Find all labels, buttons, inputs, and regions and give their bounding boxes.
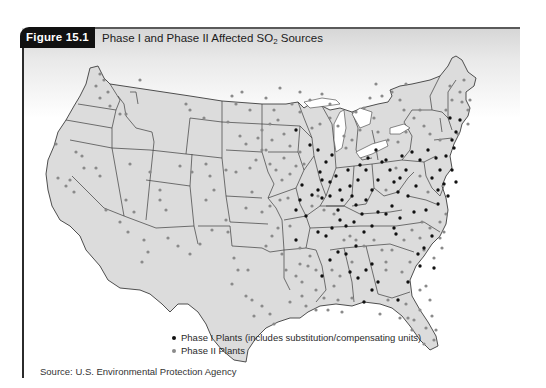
phase-i-plant-marker xyxy=(416,252,419,255)
phase-ii-plant-marker xyxy=(340,310,343,313)
phase-ii-plant-marker xyxy=(376,130,379,133)
phase-i-plant-marker xyxy=(430,234,433,237)
phase-ii-plant-marker xyxy=(300,294,303,297)
phase-ii-plant-marker xyxy=(272,108,275,111)
phase-ii-plant-marker xyxy=(406,316,409,319)
phase-ii-plant-marker xyxy=(226,230,229,233)
phase-ii-plant-marker xyxy=(298,246,301,249)
phase-ii-plant-marker xyxy=(94,84,97,87)
phase-i-plant-marker xyxy=(442,182,445,185)
phase-ii-plant-marker xyxy=(232,256,235,259)
phase-i-plant-marker xyxy=(446,194,449,197)
phase-ii-plant-marker xyxy=(282,156,285,159)
phase-ii-plant-marker xyxy=(280,178,283,181)
phase-ii-plant-marker xyxy=(188,108,191,111)
phase-ii-plant-marker xyxy=(158,188,161,191)
phase-i-dot-icon xyxy=(172,336,176,340)
phase-i-plant-marker xyxy=(376,210,379,213)
phase-ii-plant-marker xyxy=(430,314,433,317)
phase-ii-plant-marker xyxy=(418,174,421,177)
phase-ii-plant-marker xyxy=(384,188,387,191)
phase-ii-plant-marker xyxy=(400,270,403,273)
phase-ii-plant-marker xyxy=(438,236,441,239)
phase-ii-plant-marker xyxy=(358,128,361,131)
phase-ii-plant-marker xyxy=(276,226,279,229)
phase-i-plant-marker xyxy=(400,154,403,157)
phase-i-plant-marker xyxy=(410,150,413,153)
phase-ii-plant-marker xyxy=(308,98,311,101)
phase-ii-plant-marker xyxy=(264,244,267,247)
phase-ii-plant-marker xyxy=(380,248,383,251)
phase-ii-plant-marker xyxy=(250,298,253,301)
phase-ii-plant-marker xyxy=(244,206,247,209)
phase-ii-plant-marker xyxy=(54,142,57,145)
phase-i-plant-marker xyxy=(396,298,399,301)
phase-i-plant-marker xyxy=(328,258,331,261)
phase-i-plant-marker xyxy=(344,252,347,255)
phase-i-plant-marker xyxy=(434,156,437,159)
phase-i-plant-marker xyxy=(340,198,343,201)
phase-ii-plant-marker xyxy=(298,150,301,153)
phase-ii-plant-marker xyxy=(278,198,281,201)
phase-ii-plant-marker xyxy=(306,264,309,267)
phase-i-plant-marker xyxy=(384,158,387,161)
phase-ii-plant-marker xyxy=(448,84,451,87)
phase-ii-plant-marker xyxy=(354,238,357,241)
phase-i-plant-marker xyxy=(336,250,339,253)
phase-ii-plant-marker xyxy=(368,96,371,99)
phase-ii-plant-marker xyxy=(118,112,121,115)
phase-ii-plant-marker xyxy=(408,260,411,263)
phase-ii-plant-marker xyxy=(280,252,283,255)
phase-i-plant-marker xyxy=(424,208,427,211)
phase-ii-plant-marker xyxy=(378,312,381,315)
phase-ii-plant-marker xyxy=(252,314,255,317)
phase-i-plant-marker xyxy=(414,184,417,187)
phase-ii-plant-marker xyxy=(234,102,237,105)
phase-i-plant-marker xyxy=(328,180,331,183)
phase-i-plant-marker xyxy=(316,188,319,191)
us-map xyxy=(0,0,546,388)
phase-ii-plant-marker xyxy=(140,260,143,263)
phase-ii-plant-marker xyxy=(212,188,215,191)
phase-i-plant-marker xyxy=(348,270,351,273)
phase-ii-plant-marker xyxy=(286,196,289,199)
phase-i-plant-marker xyxy=(364,198,367,201)
phase-i-plant-marker xyxy=(334,174,337,177)
phase-i-plant-marker xyxy=(380,160,383,163)
phase-ii-plant-marker xyxy=(64,184,67,187)
phase-i-plant-marker xyxy=(310,193,313,196)
phase-ii-plant-marker xyxy=(344,146,347,149)
phase-ii-plant-marker xyxy=(404,302,407,305)
phase-ii-plant-marker xyxy=(432,256,435,259)
phase-ii-plant-marker xyxy=(284,268,287,271)
phase-ii-plant-marker xyxy=(468,98,471,101)
phase-i-plant-marker xyxy=(454,180,457,183)
phase-ii-plant-marker xyxy=(440,246,443,249)
phase-i-plant-marker xyxy=(452,146,455,149)
phase-i-plant-marker xyxy=(448,116,451,119)
phase-i-plant-marker xyxy=(450,138,453,141)
phase-i-plant-marker xyxy=(362,300,365,303)
phase-ii-plant-marker xyxy=(444,212,447,215)
phase-ii-plant-marker xyxy=(224,168,227,171)
phase-ii-plant-marker xyxy=(420,220,423,223)
phase-ii-plant-marker xyxy=(342,238,345,241)
phase-i-plant-marker xyxy=(344,224,347,227)
phase-ii-plant-marker xyxy=(104,208,107,211)
phase-ii-plant-marker xyxy=(462,78,465,81)
phase-i-plant-marker xyxy=(390,204,393,207)
phase-ii-plant-marker xyxy=(332,212,335,215)
phase-ii-plant-marker xyxy=(322,296,325,299)
phase-i-plant-marker xyxy=(300,183,303,186)
phase-ii-plant-marker xyxy=(412,318,415,321)
phase-ii-plant-marker xyxy=(444,108,447,111)
phase-ii-dot-icon xyxy=(172,349,176,353)
phase-i-plant-marker xyxy=(294,238,297,241)
phase-ii-plant-marker xyxy=(326,308,329,311)
phase-i-plant-marker xyxy=(320,178,323,181)
phase-ii-plant-marker xyxy=(300,280,303,283)
phase-i-plant-marker xyxy=(392,226,395,229)
phase-ii-plant-marker xyxy=(290,102,293,105)
phase-i-plant-marker xyxy=(406,280,409,283)
phase-ii-plant-marker xyxy=(402,238,405,241)
